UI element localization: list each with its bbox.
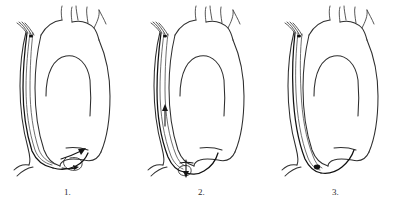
aortic-root-shelf: [334, 148, 356, 150]
aortic-root-shelf: [200, 148, 222, 150]
rotation-arrow-head: [183, 171, 189, 178]
aortic-arch-top-wall: [206, 21, 233, 40]
left-common-carotid-artery: [344, 6, 346, 20]
panel-2: 2.: [134, 0, 269, 210]
iliac-bifurcation-branch-lower: [151, 167, 167, 176]
access-entry-marker: [29, 35, 33, 38]
aortic-arch-superior-wall: [41, 20, 62, 35]
left-subclavian-artery-lateral: [205, 7, 206, 22]
panel-1-label: 1.: [0, 186, 135, 198]
panel-3-label: 3.: [268, 186, 403, 198]
iliac-bifurcation-branch-lower: [285, 167, 301, 176]
aortic-arch-top-wall: [340, 21, 367, 40]
left-common-carotid-artery-lateral: [221, 7, 222, 23]
descending-aorta-inner-wall: [35, 35, 60, 166]
aortic-arch-superior-wall: [175, 20, 196, 35]
aortic-arch-superior-wall: [309, 20, 330, 35]
aortic-arch-inner-curve: [180, 56, 225, 116]
guidewire-shaft: [157, 33, 184, 172]
aortic-root-outline: [328, 152, 369, 166]
brachiocephalic-trunk: [94, 10, 99, 28]
brachiocephalic-trunk-branch: [99, 10, 106, 24]
left-subclavian-artery: [195, 6, 196, 20]
left-subclavian-artery-lateral: [339, 7, 340, 22]
brachiocephalic-trunk: [228, 10, 233, 28]
aortic-arch-inner-curve: [46, 56, 91, 116]
left-subclavian-artery: [61, 6, 62, 20]
iliac-bifurcation-branch-lower: [17, 167, 33, 176]
aortic-arch-inner-curve: [314, 56, 359, 116]
panel-2-illustration: [134, 0, 269, 190]
wire-tip-marker: [314, 165, 320, 170]
advance-arrow-head: [162, 104, 168, 111]
ascending-aorta-outer-wall: [233, 40, 244, 152]
catheter-shaft-outer: [296, 33, 320, 170]
panel-1-illustration: [0, 0, 135, 190]
left-subclavian-artery: [329, 6, 330, 20]
figure-root: 1.: [0, 0, 404, 210]
panel-3-illustration: [268, 0, 403, 190]
left-common-carotid-artery: [210, 6, 212, 20]
guidewire-distal-segment: [321, 150, 354, 173]
left-common-carotid-artery: [76, 6, 78, 20]
access-entry-marker: [163, 35, 167, 38]
left-subclavian-artery-lateral: [71, 7, 72, 22]
brachiocephalic-trunk: [362, 10, 367, 28]
access-entry-marker: [297, 35, 301, 38]
left-common-carotid-artery-lateral: [87, 7, 88, 23]
brachiocephalic-trunk-branch: [367, 10, 374, 24]
panel-1: 1.: [0, 0, 135, 210]
ascending-aorta-outer-wall: [367, 40, 378, 152]
aortic-arch-top-wall: [72, 21, 99, 40]
panel-2-label: 2.: [134, 186, 269, 198]
brachiocephalic-trunk-branch: [233, 10, 240, 24]
left-common-carotid-artery-lateral: [355, 7, 356, 23]
ascending-aorta-outer-wall: [99, 40, 110, 152]
aortic-root-outline: [194, 152, 235, 166]
descending-aorta-inner-wall: [303, 35, 328, 166]
panel-3: 3.: [268, 0, 403, 210]
